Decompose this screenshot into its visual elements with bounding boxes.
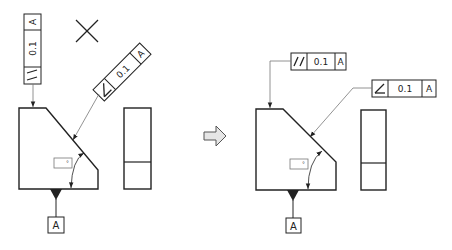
tolerance-text: 0.1 (314, 57, 328, 67)
parallelism-frame-vertical: A 0.1 (24, 14, 41, 84)
incorrect-x-icon (76, 20, 98, 42)
part-side-view (124, 108, 151, 189)
datum-feature-symbol: A (286, 190, 301, 233)
leader-line (270, 61, 291, 108)
parallelism-frame-horizontal: 0.1 A (291, 53, 346, 70)
tolerance-text: 0.1 (398, 84, 412, 94)
correct-example: 0.1 A 0.1 A ° A (256, 53, 436, 233)
angularity-frame-rotated: 0.1 A (93, 43, 151, 101)
datum-label: A (53, 220, 60, 231)
datum-ref-text: A (337, 57, 344, 67)
tolerance-text: 0.1 (28, 41, 38, 55)
angle-value-box (290, 159, 308, 169)
leader-line (73, 94, 99, 140)
datum-feature-symbol: A (48, 189, 64, 233)
diagram-canvas: A 0.1 0.1 A ° (0, 0, 452, 250)
datum-ref-text: A (426, 84, 433, 94)
right-arrow-icon (204, 126, 226, 146)
datum-ref-text: A (28, 18, 38, 25)
datum-label: A (290, 221, 297, 232)
degree-symbol: ° (302, 160, 305, 167)
angularity-frame-horizontal: 0.1 A (372, 80, 436, 97)
part-front-view (19, 108, 98, 189)
incorrect-example: A 0.1 0.1 A ° (19, 14, 151, 233)
part-side-view (361, 110, 386, 190)
angle-value-box (54, 158, 72, 168)
degree-symbol: ° (66, 159, 69, 166)
